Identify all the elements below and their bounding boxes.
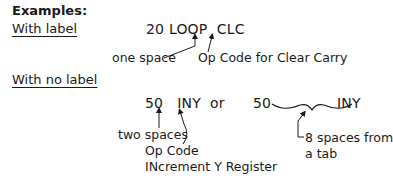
no-label-code-line-a: 50 INY — [145, 96, 201, 110]
no-label-code-line-b-number: 50 — [253, 96, 271, 110]
two-spaces-annotation: two spaces — [118, 129, 188, 142]
tab-arrow-icon — [298, 113, 304, 137]
examples-heading: Examples: — [12, 4, 87, 17]
with-label-subheading: With label — [12, 22, 77, 35]
line-number: 50 — [145, 95, 163, 111]
opcode-field: CLC — [217, 21, 245, 37]
with-no-label-subheading: With no label — [12, 73, 97, 86]
with-label-code-line: 20 LOOP CLC — [146, 22, 245, 36]
or-separator: or — [210, 96, 225, 110]
label-field: LOOP — [169, 21, 208, 37]
no-label-code-line-b-opcode: INY — [337, 96, 361, 110]
increment-y-register-note: INcrement Y Register — [145, 161, 277, 174]
line-number: 20 — [146, 21, 164, 37]
opcode-clear-carry-annotation: Op Code for Clear Carry — [198, 52, 347, 65]
opcode-field: INY — [177, 95, 201, 111]
from-a-tab-annotation: a tab — [305, 148, 337, 161]
opcode-note: Op Code — [145, 145, 199, 158]
eight-spaces-annotation: 8 spaces from — [305, 132, 393, 145]
one-space-annotation: one space — [112, 52, 176, 65]
